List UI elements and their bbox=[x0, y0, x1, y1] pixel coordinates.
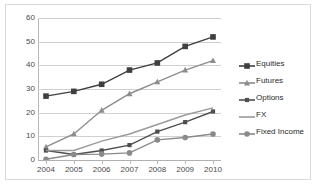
legend-label: Fixed Income bbox=[256, 127, 304, 136]
data-point-marker bbox=[127, 150, 133, 156]
x-tick-label: 2007 bbox=[115, 165, 145, 175]
legend-label: Futures bbox=[256, 76, 283, 85]
data-point-marker bbox=[99, 81, 105, 87]
y-axis: 0102030405060 bbox=[6, 18, 35, 160]
legend-label: Equities bbox=[256, 59, 284, 68]
y-tick-label: 40 bbox=[9, 61, 35, 69]
x-tick-mark bbox=[157, 160, 158, 164]
x-tick-label: 2008 bbox=[142, 165, 172, 175]
legend-label: Options bbox=[256, 93, 284, 102]
series-options bbox=[44, 109, 215, 156]
x-tick-mark bbox=[213, 160, 214, 164]
data-point-marker bbox=[211, 109, 215, 113]
chart-series-layer bbox=[38, 18, 221, 160]
data-point-marker bbox=[99, 151, 105, 157]
legend-item-equities[interactable]: Equities bbox=[238, 55, 316, 72]
x-tick-mark bbox=[46, 160, 47, 164]
legend-item-options[interactable]: Options bbox=[238, 89, 316, 106]
x-tick-mark bbox=[102, 160, 103, 164]
chart-legend: EquitiesFuturesOptionsFXFixed Income bbox=[238, 55, 316, 140]
y-tick-label: 30 bbox=[9, 85, 35, 93]
data-point-marker bbox=[127, 67, 133, 73]
x-tick-label: 2005 bbox=[59, 165, 89, 175]
x-tick-mark bbox=[74, 160, 75, 164]
y-tick-label: 50 bbox=[9, 38, 35, 46]
legend-label: FX bbox=[256, 110, 266, 119]
data-point-marker bbox=[127, 143, 131, 147]
data-point-marker bbox=[155, 60, 161, 66]
legend-item-fixed-income[interactable]: Fixed Income bbox=[238, 123, 316, 140]
data-point-marker bbox=[245, 97, 249, 101]
y-tick-label: 10 bbox=[9, 132, 35, 140]
x-tick-mark bbox=[130, 160, 131, 164]
x-axis: 2004200520062007200820092010 bbox=[38, 165, 221, 179]
y-tick-label: 20 bbox=[9, 109, 35, 117]
data-point-marker bbox=[210, 131, 216, 137]
legend-item-fx[interactable]: FX bbox=[238, 106, 316, 123]
legend-marker-icon bbox=[238, 58, 256, 70]
x-tick-label: 2004 bbox=[31, 165, 61, 175]
data-point-marker bbox=[210, 34, 216, 40]
data-point-marker bbox=[182, 135, 188, 141]
legend-marker-icon bbox=[238, 92, 256, 104]
x-tick-label: 2009 bbox=[170, 165, 200, 175]
chart-container: 0102030405060 20042005200620072008200920… bbox=[5, 4, 311, 180]
data-point-marker bbox=[99, 107, 105, 113]
y-tick-label: 0 bbox=[9, 156, 35, 164]
data-point-marker bbox=[244, 63, 250, 69]
x-tick-label: 2010 bbox=[198, 165, 228, 175]
data-point-marker bbox=[43, 93, 49, 99]
data-point-marker bbox=[210, 57, 216, 63]
data-point-marker bbox=[182, 44, 188, 50]
data-point-marker bbox=[71, 89, 77, 95]
legend-item-futures[interactable]: Futures bbox=[238, 72, 316, 89]
data-point-marker bbox=[155, 130, 159, 134]
legend-marker-icon bbox=[238, 126, 256, 138]
data-point-marker bbox=[155, 137, 161, 143]
legend-marker-icon bbox=[238, 75, 256, 87]
legend-marker-icon bbox=[238, 109, 256, 121]
x-tick-label: 2006 bbox=[87, 165, 117, 175]
y-tick-label: 60 bbox=[9, 14, 35, 22]
series-equities bbox=[43, 34, 216, 99]
series-line bbox=[46, 111, 213, 154]
data-point-marker bbox=[244, 131, 250, 137]
data-point-marker bbox=[183, 120, 187, 124]
data-point-marker bbox=[71, 152, 77, 158]
x-tick-mark bbox=[185, 160, 186, 164]
